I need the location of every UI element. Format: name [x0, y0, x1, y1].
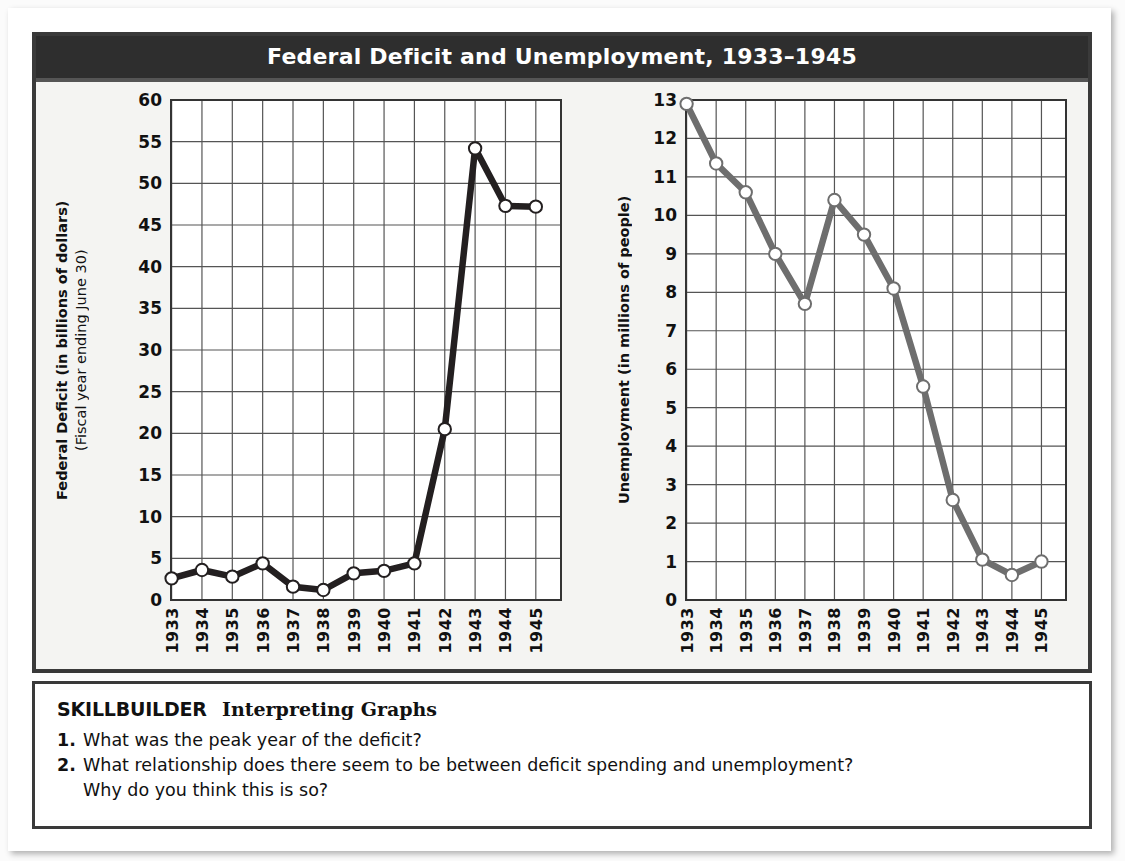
data-point-marker [348, 567, 360, 579]
chart-card: Federal Deficit and Unemployment, 1933–1… [32, 32, 1092, 673]
data-point-marker [317, 584, 329, 596]
skillbuilder-label: SKILLBUILDER [57, 698, 207, 720]
skillbuilder-question-1: 1. What was the peak year of the deficit… [57, 728, 1067, 753]
skillbuilder-panel: SKILLBUILDER Interpreting Graphs 1. What… [32, 681, 1092, 829]
question-continuation: Why do you think this is so? [83, 778, 1067, 803]
question-text: What was the peak year of the deficit? [83, 728, 1067, 753]
data-point-marker [740, 186, 752, 198]
data-point-marker [858, 228, 870, 240]
data-point-marker [799, 298, 811, 310]
data-point-marker [769, 248, 781, 260]
plots-area: Federal Deficit (in billions of dollars)… [36, 86, 1088, 669]
plot-background [686, 100, 1066, 600]
question-number: 2. [57, 753, 83, 778]
data-point-marker [947, 494, 959, 506]
data-point-marker [256, 557, 268, 569]
data-point-marker [710, 157, 722, 169]
data-point-marker [408, 557, 420, 569]
data-point-marker [1035, 555, 1047, 567]
question-number: 1. [57, 728, 83, 753]
data-point-marker [469, 142, 481, 154]
figure-root: Federal Deficit and Unemployment, 1933–1… [0, 0, 1125, 861]
data-point-marker [680, 98, 692, 110]
unemployment-chart: Unemployment (in millions of people)0123… [596, 86, 1088, 669]
skillbuilder-subtitle: Interpreting Graphs [222, 698, 437, 720]
data-point-marker [530, 200, 542, 212]
data-point-marker [976, 553, 988, 565]
skillbuilder-heading: SKILLBUILDER Interpreting Graphs [57, 698, 1067, 721]
data-point-marker [439, 423, 451, 435]
deficit-chart: Federal Deficit (in billions of dollars)… [36, 86, 596, 669]
data-point-marker [917, 380, 929, 392]
chart-title-bar: Federal Deficit and Unemployment, 1933–1… [36, 36, 1088, 82]
question-text: What relationship does there seem to be … [83, 753, 1067, 778]
skillbuilder-question-2: 2. What relationship does there seem to … [57, 753, 1067, 778]
data-point-marker [1006, 569, 1018, 581]
data-point-marker [226, 570, 238, 582]
data-point-marker [378, 565, 390, 577]
plot-canvas [596, 86, 1088, 666]
data-point-marker [499, 200, 511, 212]
plot-canvas [36, 86, 596, 666]
data-point-marker [196, 564, 208, 576]
data-point-marker [887, 282, 899, 294]
data-point-marker [287, 580, 299, 592]
data-point-marker [165, 572, 177, 584]
data-point-marker [828, 194, 840, 206]
chart-title: Federal Deficit and Unemployment, 1933–1… [36, 36, 1088, 78]
